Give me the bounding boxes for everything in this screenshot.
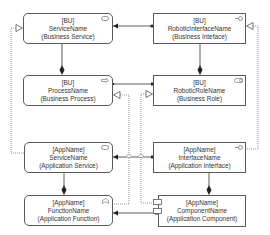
service-icon bbox=[101, 145, 109, 150]
process-icon bbox=[101, 78, 109, 83]
node-type: (Business Service) bbox=[41, 33, 94, 41]
node-type: (Application Interface) bbox=[168, 162, 230, 170]
role-icon bbox=[234, 78, 243, 83]
node-type: (Application Component) bbox=[167, 215, 237, 223]
edge-realization-app-interface-to-bu-interface bbox=[247, 23, 259, 150]
node-name: RoboticRoleName bbox=[174, 87, 226, 95]
node-type: (Business Role) bbox=[177, 95, 222, 103]
node-name: ServiceName bbox=[49, 25, 87, 33]
edge-composition-bu-interface-to-bu-role bbox=[198, 44, 203, 75]
node-application-service[interactable]: [AppName] ServiceName (Application Servi… bbox=[24, 142, 113, 173]
edge-assignment-app-interface-to-app-service bbox=[113, 155, 154, 159]
edge-assignment-app-component-to-app-function bbox=[113, 212, 158, 215]
node-type: (Business Process) bbox=[40, 95, 95, 103]
node-business-role[interactable]: [BU] RoboticRoleName (Business Role) bbox=[153, 75, 246, 106]
function-icon bbox=[102, 198, 109, 204]
node-business-service[interactable]: [BU] ServiceName (Business Service) bbox=[23, 13, 113, 44]
service-icon bbox=[101, 16, 109, 21]
node-application-component[interactable]: [AppName] ComponentName (Application Com… bbox=[158, 195, 246, 227]
architecture-diagram: [BU] ServiceName (Business Service) [BU]… bbox=[0, 0, 270, 235]
node-type: (Business Inteface) bbox=[172, 33, 227, 41]
edge-composition-bu-service-to-bu-process bbox=[60, 44, 65, 75]
node-prefix: [AppName] bbox=[184, 146, 216, 154]
component-icon bbox=[153, 199, 163, 217]
edge-composition-app-interface-to-app-component bbox=[207, 173, 212, 195]
node-prefix: [AppName] bbox=[53, 199, 85, 207]
node-prefix: [BU] bbox=[193, 79, 205, 87]
node-name: FunctionName bbox=[48, 207, 90, 215]
node-name: InterfaceName bbox=[179, 154, 221, 162]
edge-realization-app-function-to-bu-process bbox=[112, 92, 129, 205]
node-type: (Application Function) bbox=[38, 215, 100, 223]
node-prefix: [AppName] bbox=[186, 199, 218, 207]
node-application-interface[interactable]: [AppName] InterfaceName (Application Int… bbox=[153, 142, 246, 173]
edge-composition-app-service-to-app-function bbox=[62, 173, 67, 195]
node-business-process[interactable]: [BU] ProcessName (Business Process) bbox=[23, 75, 113, 106]
node-prefix: [BU] bbox=[62, 17, 74, 25]
node-prefix: [BU] bbox=[193, 17, 205, 25]
node-name: ProcessName bbox=[48, 87, 88, 95]
node-business-interface[interactable]: [BU] RoboticInterfaceName (Business Inte… bbox=[153, 13, 246, 44]
node-prefix: [BU] bbox=[62, 79, 74, 87]
node-name: ComponentName bbox=[177, 207, 227, 215]
node-name: ServiceName bbox=[49, 154, 87, 162]
interface-icon bbox=[235, 145, 243, 150]
node-type: (Application Service) bbox=[39, 162, 98, 170]
node-application-function[interactable]: [AppName] FunctionName (Application Func… bbox=[24, 195, 113, 226]
node-name: RoboticInterfaceName bbox=[168, 25, 232, 33]
edge-assignment-bu-role-to-bu-process bbox=[112, 83, 154, 86]
interface-icon bbox=[235, 16, 243, 21]
node-prefix: [AppName] bbox=[53, 146, 85, 154]
